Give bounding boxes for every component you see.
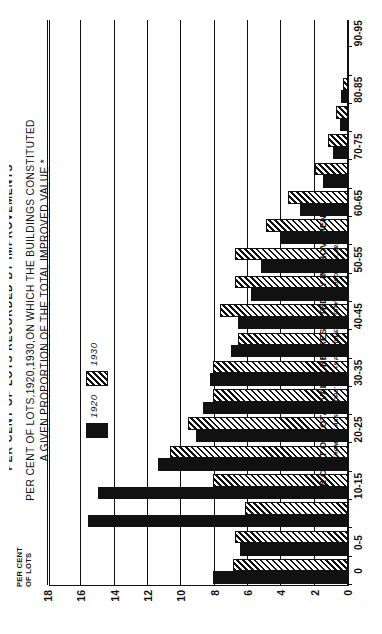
bar-1920	[98, 487, 348, 499]
bar-1930	[235, 531, 348, 543]
bar-1920	[341, 90, 348, 102]
gridline	[114, 20, 115, 585]
gridline	[214, 20, 215, 585]
gridline	[314, 20, 315, 585]
legend-label: 1920	[88, 394, 99, 418]
x-axis-tick-label: 0	[353, 568, 364, 574]
x-axis-tick	[348, 386, 352, 387]
x-axis-tick-label: 40-45	[353, 303, 364, 329]
cut-off-page-header: PER CENT OF LOTS RECORDED BY IMPROVEMENT…	[2, 0, 16, 634]
x-axis-tick	[348, 584, 352, 585]
x-axis-baseline	[347, 20, 348, 585]
plot-area: PER CENT OF LOTS 02468101214161800-510-1…	[49, 20, 349, 586]
chart-title-line-1: PER CENT OF LOTS,1920,1930,ON WHICH THE …	[24, 60, 38, 560]
y-axis-title: PER CENT OF LOTS	[16, 531, 33, 587]
bar-1930	[235, 276, 348, 288]
x-axis-tick-label: 60-65	[353, 190, 364, 216]
x-axis-tick	[348, 103, 352, 104]
x-axis-tick	[348, 527, 352, 528]
diagonal-hatch-swatch	[86, 371, 108, 386]
x-axis-tick	[348, 443, 352, 444]
x-axis-tick-label: 80-85	[353, 77, 364, 103]
bar-1920	[88, 515, 348, 527]
source-footnote: * FROM TAX ASSESSORS' LIST AS PUBLISHED …	[333, 238, 339, 464]
gridline	[47, 20, 48, 585]
x-axis-tick	[348, 301, 352, 302]
gridline	[180, 20, 181, 585]
x-axis-tick	[348, 273, 352, 274]
bar-1920	[240, 543, 348, 555]
gridline	[80, 20, 81, 585]
bar-1930	[235, 248, 348, 260]
x-axis-tick-label: 20-25	[353, 416, 364, 442]
x-axis-tick	[348, 131, 352, 132]
solid-black-swatch	[86, 423, 108, 438]
bar-1920	[238, 317, 348, 329]
footnote-holder: * FROM TAX ASSESSORS' LIST AS PUBLISHED …	[333, 68, 339, 634]
x-axis-tick-label: 90-95	[353, 20, 364, 46]
x-axis-tick-label: 50-55	[353, 247, 364, 273]
x-axis-tick	[348, 160, 352, 161]
x-axis-tick	[348, 358, 352, 359]
x-axis-title: PER CENT OF TOTAL VALUE REPRESENTED BY I…	[318, 203, 328, 499]
x-axis-tick-label: 0-5	[353, 535, 364, 550]
x-axis-tick	[348, 499, 352, 500]
y-axis-title-line-2: OF LOTS	[25, 531, 34, 587]
figure-frame: PER CENT OF LOTS RECORDED BY IMPROVEMENT…	[0, 0, 382, 634]
x-axis-title-holder: PER CENT OF TOTAL VALUE REPRESENTED BY I…	[318, 68, 328, 634]
y-axis-tick-label: 18	[42, 590, 54, 602]
gridline	[147, 20, 148, 585]
x-axis-tick	[348, 556, 352, 557]
x-axis-tick	[348, 471, 352, 472]
x-axis-tick	[348, 414, 352, 415]
y-axis-tick-label: 10	[175, 590, 187, 602]
bar-1930	[343, 78, 348, 90]
x-axis-tick	[348, 329, 352, 330]
chart-legend: 19201930	[86, 330, 130, 438]
x-axis-tick	[348, 216, 352, 217]
bar-1920	[231, 345, 348, 357]
y-axis-tick-label: 16	[75, 590, 87, 602]
x-axis-tick	[348, 244, 352, 245]
x-axis-tick-label: 10-15	[353, 473, 364, 499]
gridline	[247, 20, 248, 585]
y-axis-tick-label: 8	[209, 590, 221, 596]
x-axis-tick-label: 30-35	[353, 360, 364, 386]
bar-1930	[220, 304, 348, 316]
bar-1930	[238, 333, 348, 345]
bar-1930	[233, 559, 348, 571]
bar-1920	[340, 119, 348, 131]
rotated-chart-canvas: PER CENT OF LOTS RECORDED BY IMPROVEMENT…	[0, 0, 382, 634]
y-axis-tick-label: 4	[275, 590, 287, 596]
x-axis-tick-label: 70-75	[353, 133, 364, 159]
x-axis-tick	[348, 46, 352, 47]
y-axis-tick-label: 12	[142, 590, 154, 602]
y-axis-tick-label: 0	[342, 590, 354, 596]
legend-label: 1930	[88, 342, 99, 366]
x-axis-tick	[348, 188, 352, 189]
x-axis-tick	[348, 75, 352, 76]
gridline	[280, 20, 281, 585]
y-axis-tick-label: 14	[109, 590, 121, 602]
y-axis-tick-label: 6	[242, 590, 254, 596]
